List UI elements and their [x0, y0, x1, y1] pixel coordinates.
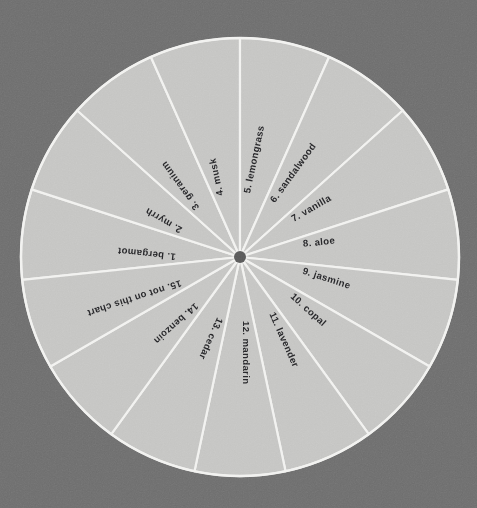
scent-wheel-chart[interactable]: 1. bergamot2. myrrh3. geranium4. musk5. … [0, 0, 477, 508]
scent-wheel-canvas: 1. bergamot2. myrrh3. geranium4. musk5. … [0, 0, 477, 508]
wheel-hub [234, 251, 246, 263]
segment-label-12: 12. mandarin [241, 321, 252, 384]
